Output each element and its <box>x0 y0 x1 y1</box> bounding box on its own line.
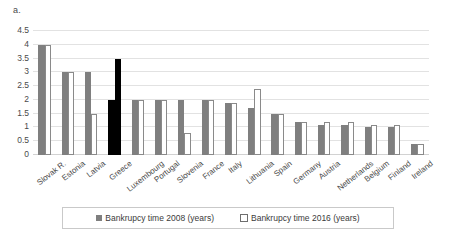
chart-panel: a. 00.511.522.533.544.5 Slovak R.Estonia… <box>0 0 451 235</box>
bar-group <box>336 31 359 155</box>
bar-group <box>243 31 266 155</box>
legend-item-label: Bankrupcy time 2008 (years) <box>105 213 214 223</box>
bar-group <box>406 31 429 155</box>
x-axis-tick-label: Ireland <box>410 159 435 181</box>
bar-group <box>196 31 219 155</box>
y-axis-tick-label: 3 <box>24 67 29 76</box>
bar <box>324 122 330 155</box>
x-axis-label-cell: Slovak R. <box>33 157 56 195</box>
bar-group <box>56 31 79 155</box>
legend-item[interactable]: Bankrupcy time 2016 (years) <box>240 213 360 223</box>
bar-group <box>219 31 242 155</box>
chart-legend: Bankrupcy time 2008 (years)Bankrupcy tim… <box>62 207 394 229</box>
bar <box>91 114 97 155</box>
bar <box>301 122 307 155</box>
x-axis-tick-label: Italy <box>227 159 244 175</box>
legend-item-label: Bankrupcy time 2016 (years) <box>251 213 360 223</box>
x-axis-label-cell: Greece <box>103 157 126 195</box>
y-axis-tick-label: 3.5 <box>17 53 29 62</box>
bar <box>417 144 423 155</box>
bar-group <box>173 31 196 155</box>
legend-item[interactable]: Bankrupcy time 2008 (years) <box>96 213 214 223</box>
x-axis-labels: Slovak R.EstoniaLatviaGreeceLuxembourgPo… <box>33 157 429 195</box>
x-axis-label-cell: Slovenia <box>173 157 196 195</box>
bar-group <box>359 31 382 155</box>
x-axis-label-cell: Luxembourg <box>126 157 149 195</box>
y-axis-tick-label: 2.5 <box>17 81 29 90</box>
bar <box>371 125 377 155</box>
bar <box>208 100 214 155</box>
x-axis-label-cell: Netherlands <box>336 157 359 195</box>
bar <box>138 100 144 155</box>
y-axis-tick-label: 0 <box>24 150 29 159</box>
x-axis-label-cell: Finland <box>382 157 405 195</box>
x-axis-label-cell: Belgium <box>359 157 382 195</box>
bar <box>348 122 354 155</box>
y-axis-tick-label: 1 <box>24 122 29 131</box>
bar-group <box>103 31 126 155</box>
y-axis-tick-label: 4 <box>24 40 29 49</box>
plot-area: 00.511.522.533.544.5 <box>33 31 429 155</box>
panel-label: a. <box>13 5 21 15</box>
bar-groups <box>33 31 429 155</box>
bar <box>115 59 121 155</box>
x-axis-label-cell: Italy <box>219 157 242 195</box>
bar-group <box>33 31 56 155</box>
bar <box>231 103 237 155</box>
bar-group <box>289 31 312 155</box>
x-axis-label-cell: Latvia <box>80 157 103 195</box>
x-axis-label-cell: Portugal <box>149 157 172 195</box>
y-axis-tick-label: 0.5 <box>17 136 29 145</box>
x-axis-label-cell: Ireland <box>406 157 429 195</box>
hollow-square-icon <box>240 214 248 222</box>
bar <box>184 133 190 155</box>
bar <box>161 100 167 155</box>
bar-group <box>382 31 405 155</box>
x-axis-label-cell: Spain <box>266 157 289 195</box>
bar-group <box>126 31 149 155</box>
bar-group <box>313 31 336 155</box>
x-axis-label-cell: Germany <box>289 157 312 195</box>
bar <box>68 72 74 155</box>
bar-group <box>149 31 172 155</box>
bar <box>278 114 284 155</box>
filled-square-icon <box>96 215 102 221</box>
bar-group <box>266 31 289 155</box>
x-axis-label-cell: Estonia <box>56 157 79 195</box>
x-axis-label-cell: France <box>196 157 219 195</box>
y-axis-tick-label: 1.5 <box>17 108 29 117</box>
x-axis-label-cell: Lithuania <box>243 157 266 195</box>
y-axis-tick-label: 2 <box>24 95 29 104</box>
bar <box>394 125 400 155</box>
bar <box>45 45 51 155</box>
bar <box>254 89 260 155</box>
y-axis-tick-label: 4.5 <box>17 26 29 35</box>
bar-group <box>80 31 103 155</box>
x-axis-label-cell: Austria <box>313 157 336 195</box>
